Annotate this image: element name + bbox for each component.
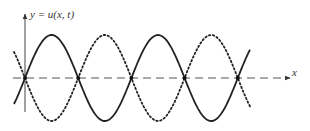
y-axis-label: y = u(x, t) bbox=[29, 8, 74, 21]
node-dot bbox=[183, 76, 187, 80]
standing-wave-diagram: y = u(x, t) x bbox=[0, 0, 310, 131]
node-dot bbox=[23, 76, 27, 80]
node-dot bbox=[129, 76, 133, 80]
node-dot bbox=[236, 76, 240, 80]
node-dot bbox=[76, 76, 80, 80]
x-axis-label: x bbox=[291, 66, 297, 78]
